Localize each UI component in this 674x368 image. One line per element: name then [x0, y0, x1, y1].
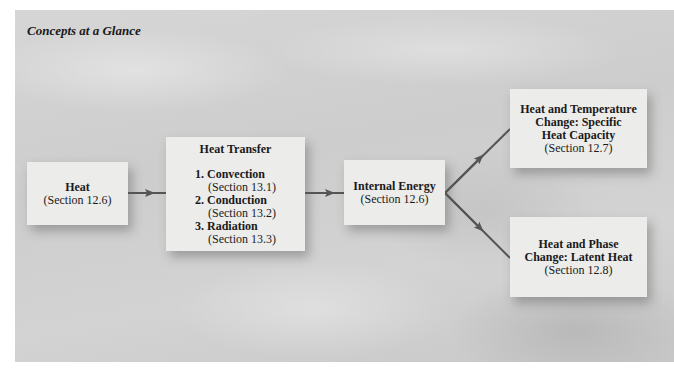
heat-transfer-list: 1. Convection (Section 13.1) 2. Conducti… [195, 168, 276, 246]
node-specific-heat-line-3: Heat Capacity [542, 129, 616, 142]
list-item-radiation: 3. Radiation [195, 220, 276, 233]
list-item-convection-section: (Section 13.1) [195, 181, 276, 194]
node-heat-section: (Section 12.6) [44, 194, 112, 207]
list-item-conduction: 2. Conduction [195, 194, 276, 207]
arrow-internal-energy-to-specific-heat [445, 129, 510, 193]
node-latent-heat: Heat and Phase Change: Latent Heat (Sect… [510, 217, 647, 297]
node-latent-heat-line-1: Heat and Phase [538, 238, 618, 251]
node-specific-heat-section: (Section 12.7) [545, 142, 613, 155]
node-latent-heat-section: (Section 12.8) [545, 264, 613, 277]
list-item-conduction-section: (Section 13.2) [195, 207, 276, 220]
arrow-internal-energy-to-latent-heat [445, 193, 510, 258]
node-internal-energy-section: (Section 12.6) [361, 193, 429, 206]
node-heat-title: Heat [65, 181, 90, 194]
node-heat-transfer: Heat Transfer 1. Convection (Section 13.… [166, 137, 305, 251]
node-heat-transfer-title: Heat Transfer [200, 143, 272, 156]
list-item-convection: 1. Convection [195, 168, 276, 181]
node-specific-heat: Heat and Temperature Change: Specific He… [510, 89, 647, 168]
node-latent-heat-line-2: Change: Latent Heat [525, 251, 633, 264]
node-specific-heat-line-1: Heat and Temperature [520, 103, 636, 116]
node-heat: Heat (Section 12.6) [27, 162, 128, 225]
node-specific-heat-line-2: Change: Specific [535, 116, 621, 129]
node-internal-energy: Internal Energy (Section 12.6) [344, 160, 445, 225]
node-internal-energy-title: Internal Energy [353, 180, 435, 193]
list-item-radiation-section: (Section 13.3) [195, 233, 276, 246]
